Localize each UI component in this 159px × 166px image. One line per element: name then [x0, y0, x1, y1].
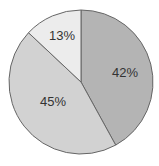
slice-label: 13%: [49, 28, 75, 43]
pie-slices: [9, 10, 153, 154]
slice-label: 42%: [112, 65, 138, 80]
slice-label: 45%: [40, 94, 66, 109]
pie-chart: 42%45%13%: [0, 0, 159, 166]
